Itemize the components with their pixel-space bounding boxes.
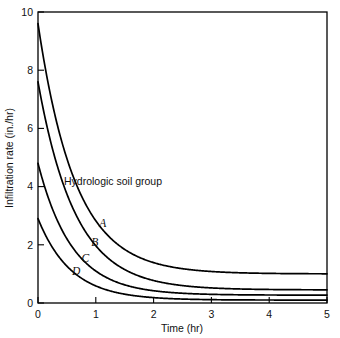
curve-label-group: ABCD [71, 217, 107, 278]
curve-label-c: C [82, 252, 90, 264]
infiltration-rate-chart: 0246810 012345 Time (hr) Infiltration ra… [0, 0, 340, 338]
x-tick-label: 5 [324, 308, 330, 320]
y-tick-label: 6 [27, 122, 33, 134]
annotation-group: Hydrologic soil group [64, 175, 162, 187]
x-axis-tick-labels: 012345 [35, 308, 330, 320]
chart-canvas: 0246810 012345 Time (hr) Infiltration ra… [0, 0, 340, 338]
x-tick-label: 3 [208, 308, 214, 320]
chart-annotation: Hydrologic soil group [64, 175, 162, 187]
y-tick-label: 0 [27, 297, 33, 309]
x-axis-title: Time (hr) [161, 322, 203, 334]
x-tick-label: 4 [266, 308, 272, 320]
y-axis-tick-labels: 0246810 [21, 6, 33, 309]
y-tick-label: 10 [21, 6, 33, 18]
x-tick-label: 0 [35, 308, 41, 320]
curve-a [38, 24, 327, 274]
y-axis-title: Infiltration rate (in./hr) [3, 108, 15, 208]
y-tick-label: 4 [27, 180, 33, 192]
curve-label-b: B [91, 236, 98, 248]
y-tick-label: 2 [27, 239, 33, 251]
y-tick-label: 8 [27, 64, 33, 76]
curve-label-a: A [98, 217, 107, 229]
x-tick-label: 1 [93, 308, 99, 320]
x-tick-label: 2 [151, 308, 157, 320]
curve-label-d: D [71, 265, 81, 277]
